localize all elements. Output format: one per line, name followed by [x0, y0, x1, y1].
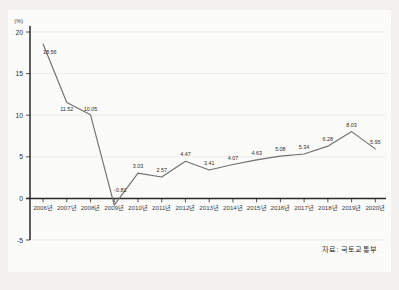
y-tick-label: 20 — [15, 29, 23, 36]
data-point-label: 3.03 — [133, 163, 144, 169]
y-tick-label: 0 — [19, 195, 23, 202]
y-tick-label: 15 — [15, 70, 23, 77]
series-line — [43, 44, 375, 205]
data-point-label: 8.03 — [346, 122, 357, 128]
data-point-label: 3.41 — [204, 160, 215, 166]
x-tick-label: 2006년 — [33, 204, 53, 211]
x-tick-label: 2015년 — [247, 204, 267, 211]
x-tick-label: 2014년 — [223, 204, 243, 211]
data-point-label: 10.05 — [84, 106, 98, 112]
x-tick-label: 2007년 — [57, 204, 77, 211]
x-tick-label: 2008년 — [81, 204, 101, 211]
y-tick-label: 10 — [15, 112, 23, 119]
x-tick-label: 2011년 — [152, 204, 171, 211]
data-point-label: 4.47 — [180, 151, 191, 157]
x-tick-label: 2010년 — [128, 204, 148, 211]
x-tick-label: 2013년 — [199, 204, 219, 211]
data-point-label: 18.56 — [43, 49, 57, 55]
data-point-label: 4.07 — [228, 155, 239, 161]
data-point-label: 4.63 — [251, 150, 262, 156]
x-tick-label: 2018년 — [318, 204, 338, 211]
chart-figure: 20151050-5(%)2006년2007년2008년2009년2010년20… — [0, 0, 399, 290]
data-point-label: -0.81 — [114, 187, 126, 193]
source-note: 자료: 국토교통부 — [322, 244, 377, 254]
x-tick-label: 2017년 — [294, 204, 314, 211]
data-point-label: 5.08 — [275, 146, 286, 152]
x-tick-label: 2016년 — [271, 204, 291, 211]
x-tick-label: 2019년 — [342, 204, 362, 211]
x-tick-label: 2012년 — [176, 204, 196, 211]
data-point-label: 11.52 — [60, 106, 73, 112]
y-tick-label: -5 — [17, 237, 23, 244]
data-point-label: 6.28 — [323, 136, 334, 142]
y-axis-unit-label: (%) — [14, 18, 23, 24]
data-point-label: 5.34 — [299, 144, 310, 150]
x-tick-label: 2020년 — [365, 204, 385, 211]
data-point-label: 5.95 — [370, 139, 381, 145]
data-point-label: 2.57 — [156, 167, 167, 173]
y-tick-label: 5 — [19, 153, 23, 160]
